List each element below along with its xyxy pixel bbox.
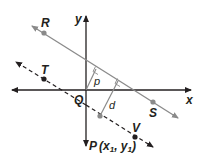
- label-Q: Q: [74, 93, 84, 107]
- label-x-axis: x: [185, 93, 194, 107]
- point-R: [41, 30, 46, 35]
- label-d: d: [109, 99, 116, 111]
- line-RS-ext: [110, 75, 178, 118]
- label-y-axis: y: [74, 12, 83, 26]
- point-foot-d: [97, 113, 102, 118]
- coordinate-diagram: R S T V Q y x p d P(x1, y1): [0, 0, 200, 162]
- label-V: V: [132, 121, 141, 135]
- label-R: R: [41, 16, 50, 30]
- point-S: [150, 99, 155, 104]
- point-T: [41, 76, 46, 81]
- label-S: S: [149, 106, 157, 120]
- label-T: T: [41, 63, 50, 77]
- label-P: P(x1, y1): [89, 139, 136, 154]
- label-p: p: [93, 75, 100, 87]
